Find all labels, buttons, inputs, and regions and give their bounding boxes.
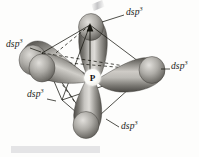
lobe-right-front (96, 57, 165, 93)
orbital-label-top-right: dsp3 (126, 7, 143, 17)
orbital-label-left-upper: dsp3 (6, 39, 23, 49)
orbital-label-base: dsp (126, 7, 140, 17)
orbital-label-base: dsp (27, 89, 41, 99)
orbital-label-exponent: 3 (140, 5, 143, 12)
orbital-label-left-lower: dsp3 (27, 89, 44, 99)
orbital-label-bottom-right: dsp3 (121, 121, 138, 131)
lobe-bottom (73, 78, 102, 139)
leader-bottom-right (106, 119, 119, 127)
orbital-label-base: dsp (171, 61, 185, 71)
orbital-label-base: dsp (6, 39, 20, 49)
leader-top-right (102, 15, 124, 22)
bottom-caption-bar (11, 146, 100, 153)
central-atom-label: P (84, 69, 101, 86)
orbital-label-exponent: 3 (20, 37, 23, 44)
orbital-label-exponent: 3 (41, 87, 44, 94)
orbital-label-base: dsp (121, 121, 135, 131)
orbital-label-exponent: 3 (185, 59, 188, 66)
orbital-label-right: dsp3 (171, 61, 188, 71)
orbital-diagram-figure: P dsp3 dsp3 dsp3 dsp3 dsp3 (0, 0, 199, 157)
leader-left-lower (47, 99, 56, 101)
orbital-label-exponent: 3 (135, 119, 138, 126)
